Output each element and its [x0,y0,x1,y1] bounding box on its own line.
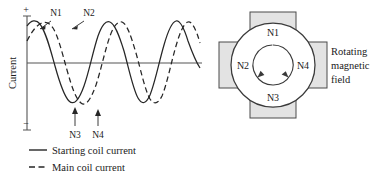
legend: Starting coil current Main coil current [29,145,136,173]
rotating-field-caption: Rotating magnetic field [331,46,370,85]
legend-label-main-coil: Main coil current [52,162,125,173]
annotation-n2: N2 [72,8,95,30]
annotation-n1-label: N1 [50,8,62,18]
pole-label-n2: N2 [237,60,249,71]
stator-diagram: N1 N2 N3 N4 Rotating magnetic field [219,12,370,118]
annotation-n3-label: N3 [69,130,81,140]
motor-rotating-field-figure: + − Current N1 N2 N3 N4 [0,0,383,175]
axis-plus-sign: + [23,4,29,15]
pole-label-n4: N4 [297,60,309,71]
annotation-n2-label: N2 [83,8,95,18]
annotation-n3: N3 [69,107,81,140]
pole-label-n3: N3 [267,92,279,103]
pole-label-n1: N1 [267,27,279,38]
starting-coil-current-wave [27,21,200,103]
caption-line-3: field [331,74,351,85]
annotation-n4-label: N4 [92,130,104,140]
caption-line-1: Rotating [331,46,368,57]
waveform-plot: + − Current N1 N2 N3 N4 [7,4,202,173]
legend-item-main-coil: Main coil current [29,162,125,173]
annotation-n4: N4 [92,109,104,140]
y-axis-label: Current [7,57,18,89]
annotation-n1: N1 [40,8,62,29]
legend-item-starting-coil: Starting coil current [29,145,136,156]
legend-label-starting-coil: Starting coil current [52,145,136,156]
caption-line-2: magnetic [331,60,370,71]
axis-minus-sign: − [23,118,29,129]
